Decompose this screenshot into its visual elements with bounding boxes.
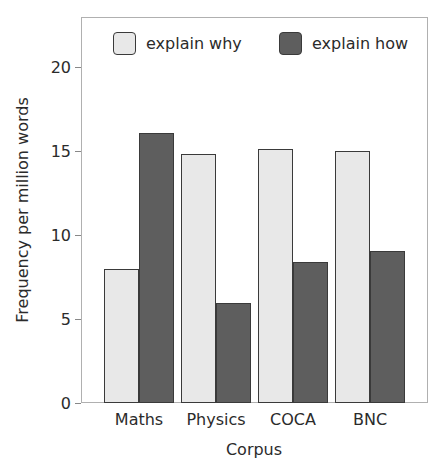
y-axis-title: Frequency per million words (13, 97, 32, 322)
y-tick (75, 235, 81, 236)
y-tick (75, 403, 81, 404)
x-tick-label: COCA (270, 410, 316, 429)
y-tick-label: 0 (61, 394, 71, 413)
x-tick-label: Maths (115, 410, 163, 429)
y-tick (75, 151, 81, 152)
y-tick-label: 20 (51, 58, 71, 77)
legend-label-how: explain how (312, 34, 408, 53)
bar-coca-explain-why (258, 149, 293, 403)
x-axis-title: Corpus (226, 440, 282, 459)
legend-item-explain-why: explain why (113, 32, 242, 55)
bar-physics-explain-how (216, 303, 251, 403)
y-tick-label: 10 (51, 226, 71, 245)
legend-item-explain-how: explain how (279, 32, 408, 55)
y-tick-label: 5 (61, 310, 71, 329)
bar-physics-explain-why (181, 154, 216, 403)
y-tick (75, 67, 81, 68)
legend-swatch-why (113, 32, 136, 55)
bar-bnc-explain-how (370, 251, 405, 403)
y-tick (75, 319, 81, 320)
x-tick-label: BNC (353, 410, 387, 429)
legend-label-why: explain why (146, 34, 242, 53)
bar-bnc-explain-why (335, 151, 370, 403)
bar-maths-explain-how (139, 133, 174, 403)
y-tick-label: 15 (51, 142, 71, 161)
x-tick-label: Physics (186, 410, 245, 429)
bar-maths-explain-why (104, 269, 139, 403)
bar-coca-explain-how (293, 262, 328, 403)
legend-swatch-how (279, 32, 302, 55)
